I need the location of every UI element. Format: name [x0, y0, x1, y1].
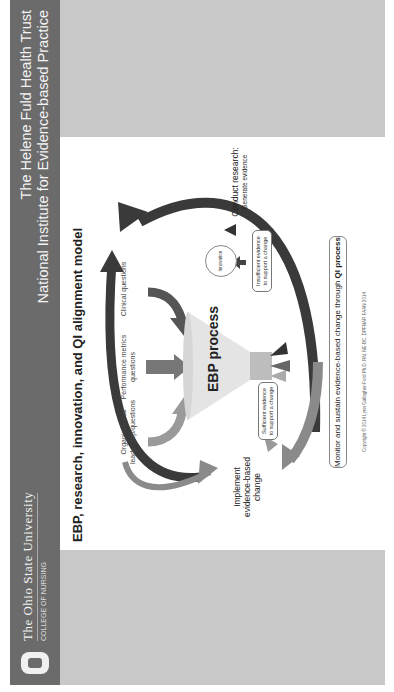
label-line: evidence-based change: [242, 447, 262, 527]
implement-arrowhead-upper: [198, 460, 218, 484]
trust-line-2: National Institute for Evidence-based Pr…: [35, 10, 52, 303]
divider: [37, 493, 38, 641]
label-line: Clinical questions: [120, 254, 129, 324]
funnel-label: EBP process: [205, 306, 221, 392]
box-line: to support a change: [268, 386, 275, 436]
trust-title: The Helene Fuld Health Trust National In…: [18, 10, 52, 303]
label-line: Implement: [232, 447, 242, 527]
label-line: Generate evidence: [240, 142, 250, 222]
org-input-arrow: [148, 412, 182, 442]
label-line: Conduct research:: [230, 142, 240, 222]
trust-line-1: The Helene Fuld Health Trust: [18, 10, 35, 303]
output-arrow-insufficient: [270, 342, 288, 356]
funnel-spout: [250, 352, 272, 380]
label-line: Performance metrics: [120, 332, 129, 402]
insufficient-evidence-box: Insufficient evidence to support a chang…: [252, 230, 272, 292]
slide-header-band: The Ohio State University COLLEGE OF NUR…: [10, 0, 60, 685]
box-line: Sufficient evidence: [261, 386, 268, 436]
research-label: Conduct research: Generate evidence: [230, 142, 250, 222]
block-o-icon: [20, 651, 50, 675]
college-name: COLLEGE OF NURSING: [40, 562, 47, 641]
input-label-clinical: Clinical questions: [120, 254, 129, 324]
label-line: questions: [129, 332, 138, 402]
input-label-organizational: Organizational leadership/questions: [120, 397, 137, 467]
rotated-slide: The Ohio State University COLLEGE OF NUR…: [0, 0, 394, 692]
left-gray-panel: [60, 550, 385, 685]
output-arrow-mid: [270, 360, 290, 372]
to-research-arrow: [224, 224, 236, 236]
monitor-text: Monitor and sustain evidence-based chang…: [333, 278, 342, 467]
monitor-qi-box: Monitor and sustain evidence-based chang…: [329, 236, 347, 468]
metrics-input-arrow: [146, 360, 176, 374]
innovation-circle: Innovation: [205, 245, 237, 277]
bottom-cycle-arc-dark: [140, 203, 315, 432]
bottom-cycle-arc-light: [290, 362, 318, 460]
right-gray-panel: [60, 0, 385, 137]
university-name: The Ohio State University: [20, 492, 36, 641]
box-line: Insufficient evidence: [255, 234, 262, 288]
output-arrow-sufficient: [270, 370, 286, 382]
label-line: leadership/questions: [129, 397, 138, 467]
implement-label: Implement evidence-based change: [232, 447, 262, 527]
box-line: to support a change: [262, 234, 269, 288]
monitor-bold-text: QI process: [333, 237, 342, 278]
copyright-notice: Copyright © 2014 Lynn Gallagher-Ford Ph.…: [362, 292, 367, 452]
label-line: Organizational: [120, 397, 129, 467]
clinical-input-arrow: [148, 292, 182, 320]
input-label-performance: Performance metrics questions: [120, 332, 137, 402]
sufficient-evidence-box: Sufficient evidence to support a change: [258, 382, 278, 440]
